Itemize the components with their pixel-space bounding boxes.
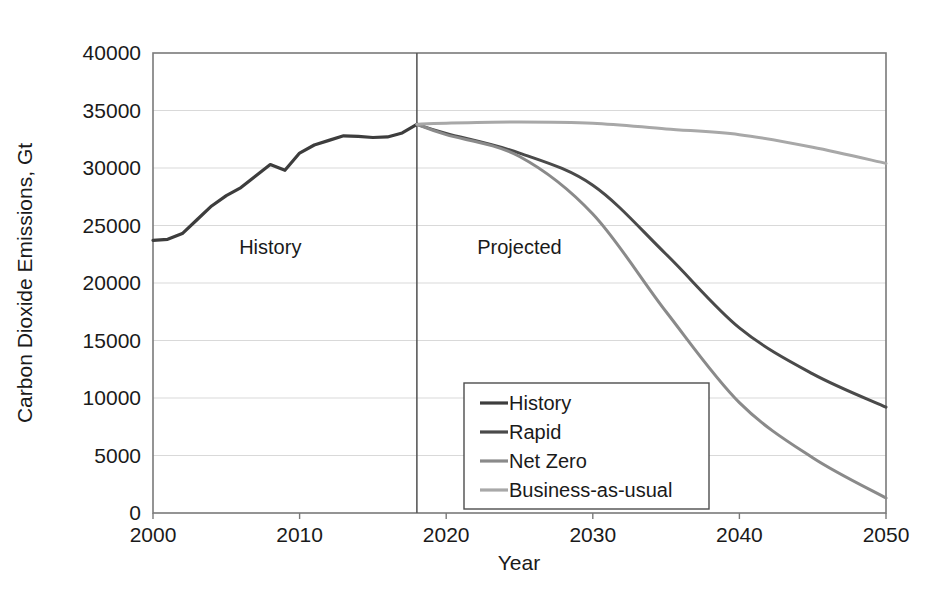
legend-label: History xyxy=(509,392,571,414)
x-tick-label: 2030 xyxy=(569,523,616,546)
x-tick-label: 2000 xyxy=(130,523,177,546)
chart-legend: HistoryRapidNet ZeroBusiness-as-usual xyxy=(464,383,709,509)
x-tick-label: 2040 xyxy=(716,523,763,546)
legend-item-business-as-usual[interactable]: Business-as-usual xyxy=(480,479,672,501)
legend-label: Business-as-usual xyxy=(509,479,672,501)
emissions-line-chart: 0500010000150002000025000300003500040000… xyxy=(0,0,944,602)
x-tick-label: 2020 xyxy=(423,523,470,546)
chart-container: 0500010000150002000025000300003500040000… xyxy=(0,0,944,602)
y-tick-label: 35000 xyxy=(83,99,141,122)
y-tick-label: 20000 xyxy=(83,271,141,294)
y-tick-label: 5000 xyxy=(94,444,141,467)
y-tick-label: 40000 xyxy=(83,41,141,64)
x-tick-label: 2050 xyxy=(863,523,910,546)
legend-label: Net Zero xyxy=(509,450,587,472)
legend-label: Rapid xyxy=(509,421,561,443)
y-tick-label: 25000 xyxy=(83,214,141,237)
y-tick-label: 15000 xyxy=(83,329,141,352)
y-tick-label: 10000 xyxy=(83,386,141,409)
y-tick-label: 30000 xyxy=(83,156,141,179)
y-tick-label: 0 xyxy=(129,501,141,524)
y-axis-title: Carbon Dioxide Emissions, Gt xyxy=(13,143,36,423)
x-axis-title: Year xyxy=(498,551,540,574)
plot-annotation-projected: Projected xyxy=(477,236,562,258)
plot-annotation-history: History xyxy=(239,236,301,258)
x-tick-label: 2010 xyxy=(276,523,323,546)
chart-background xyxy=(0,0,944,602)
